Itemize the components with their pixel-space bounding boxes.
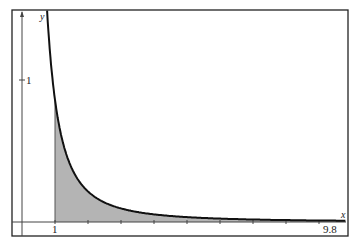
y-tick-label-1: 1 xyxy=(26,74,32,86)
x-tick-label-9.8: 9.8 xyxy=(323,223,337,235)
x-axis-label: x xyxy=(340,209,346,220)
chart: y x 1 1 9.8 xyxy=(0,0,359,248)
y-axis-label: y xyxy=(39,11,45,22)
x-tick-label-1: 1 xyxy=(52,223,58,235)
